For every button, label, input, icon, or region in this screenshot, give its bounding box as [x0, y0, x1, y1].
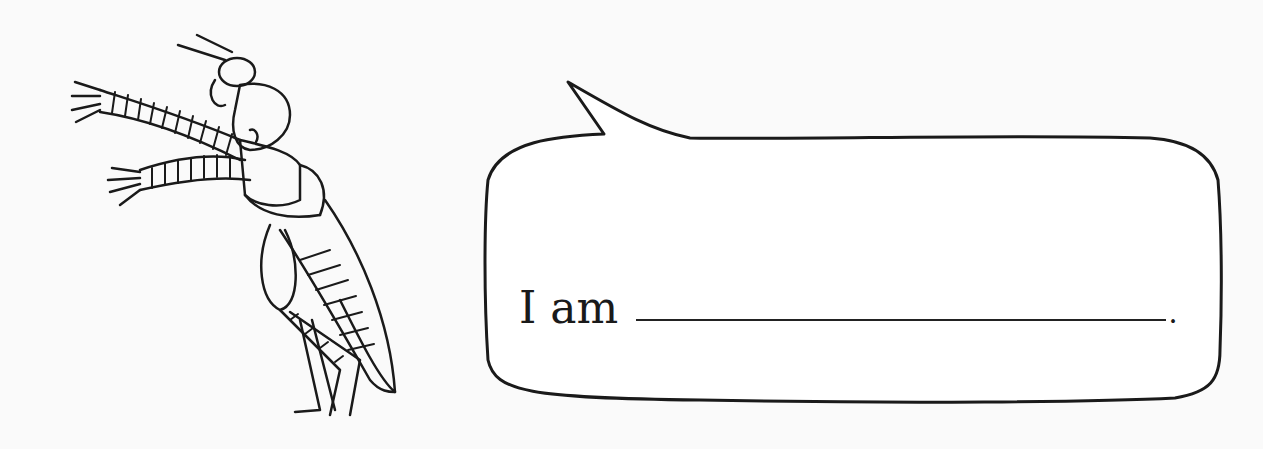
fill-in-prompt: I am .: [519, 282, 1178, 333]
prompt-label: I am: [519, 282, 618, 333]
prompt-period: .: [1168, 295, 1178, 330]
answer-blank-line[interactable]: [636, 317, 1166, 321]
worksheet-art: [0, 0, 1263, 449]
speech-bubble: [485, 82, 1221, 402]
grasshopper-illustration: [72, 35, 395, 415]
